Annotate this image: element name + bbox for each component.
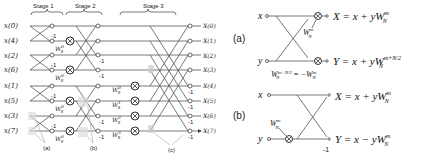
label-b: (b)	[233, 110, 245, 121]
input-label: x(0)	[4, 22, 18, 30]
equation-X: X = x + yWmN	[334, 90, 392, 104]
stage-2-to-3-wires: W08 W18 W28 W38	[100, 26, 188, 140]
output-label: X(2)	[202, 52, 216, 59]
input-label: x(4)	[4, 37, 18, 45]
twiddle-label: W38	[112, 130, 121, 140]
callout-b: (b)	[90, 145, 97, 151]
neg-one-label: -1	[188, 89, 194, 95]
input-label: x(5)	[4, 97, 18, 105]
twiddle-label: W08	[55, 104, 64, 114]
equation-Y: Y = x − yWmN	[335, 133, 391, 147]
stage-1-label: Stage 1	[33, 3, 54, 9]
input-y: y	[257, 133, 263, 144]
input-x: x	[257, 89, 263, 100]
neg-one-label: -1	[188, 104, 194, 110]
stage-2-label: Stage 2	[75, 3, 96, 9]
outputs: X(0) X(1) X(2) X(3) X(4) X(5) X(6) X(7)	[192, 22, 216, 134]
input-label: x(7)	[4, 127, 18, 135]
output-label: X(6)	[202, 112, 216, 119]
identity-note: Wm+N/2N= −WmN	[271, 70, 317, 80]
butterfly-a: (a) x y WmN X = x + yWmN Y = x + yWm+N/2…	[233, 10, 401, 80]
equation-Y: Y = x + yWm+N/2N	[333, 55, 401, 69]
output-label: X(5)	[202, 97, 216, 104]
output-label: X(3)	[202, 66, 216, 73]
label-a: (a)	[233, 33, 245, 44]
output-label: X(4)	[202, 82, 216, 89]
neg-one-label: -1	[99, 134, 105, 140]
stage-3-label: Stage 3	[143, 3, 164, 9]
output-label: X(7)	[202, 127, 216, 134]
callout-a: (a)	[43, 145, 50, 151]
twiddle-label: W18	[112, 100, 121, 110]
neg-one-label: -1	[99, 73, 105, 79]
neg-one-label: -1	[188, 134, 194, 140]
stage-braces: Stage 1 Stage 2 Stage 3	[31, 3, 176, 15]
twiddle-label: W28	[112, 115, 121, 125]
output-label: X(1)	[202, 37, 216, 44]
neg-one-label: -1	[51, 123, 57, 129]
neg-one-label: -1	[51, 33, 57, 39]
neg-one-label: -1	[323, 146, 329, 153]
twiddle-a: WmN	[303, 27, 314, 39]
input-label: x(6)	[4, 66, 18, 74]
neg-one-label: -1	[51, 62, 57, 68]
twiddle-label: W08	[55, 73, 64, 83]
butterfly-b: (b) x y WmN -1 X = x + yWmN Y = x − yWmN	[233, 89, 392, 153]
twiddle-label: W08	[55, 134, 64, 144]
input-label: x(1)	[4, 82, 18, 90]
neg-one-label: -1	[51, 93, 57, 99]
input-x: x	[257, 10, 263, 21]
neg-one-label: -1	[99, 119, 105, 125]
callouts: (a) (b) (c)	[28, 65, 183, 153]
twiddle-label: W08	[55, 44, 64, 54]
input-label: x(3)	[4, 112, 18, 120]
input-y: y	[257, 55, 263, 66]
fft-diagram: Stage 1 Stage 2 Stage 3 x(0) x(4) x(2) x…	[0, 0, 432, 157]
stage-1-to-2-wires: W08 W08 W08 W08	[54, 26, 96, 144]
neg-one-label: -1	[99, 58, 105, 64]
input-label: x(2)	[4, 52, 18, 60]
callout-c: (c)	[168, 147, 175, 153]
twiddle-label: W08	[112, 85, 121, 95]
neg-one-label: -1	[188, 119, 194, 125]
output-label: X(0)	[202, 22, 216, 29]
input-labels: x(0) x(4) x(2) x(6) x(1) x(5) x(3) x(7)	[4, 22, 18, 135]
equation-X: X = x + yWmN	[332, 10, 390, 24]
